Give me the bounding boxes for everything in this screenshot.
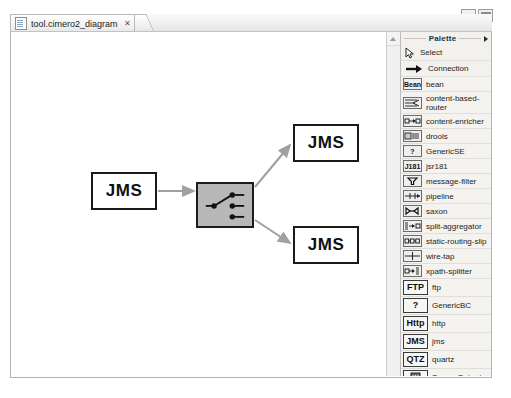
jsr181-icon: J181 bbox=[403, 160, 422, 172]
palette-item-xpath-splitter[interactable]: xpath-splitter bbox=[401, 264, 491, 279]
palette-item-quartz[interactable]: QTZ quartz bbox=[401, 351, 491, 369]
editor-body: JMS bbox=[10, 32, 492, 378]
palette-item-jms[interactable]: JMS jms bbox=[401, 333, 491, 351]
palette-item-label: jsr181 bbox=[426, 162, 448, 171]
palette-item-label: content-based-router bbox=[426, 94, 481, 112]
palette-item-label: GenericBC bbox=[432, 301, 471, 310]
palette-group-service-engines: Bean bean content-based-router conte bbox=[401, 77, 491, 279]
palette-item-drools[interactable]: drools bbox=[401, 129, 491, 144]
connection-router-to-jms-top[interactable] bbox=[255, 145, 290, 187]
palette-tool-label: Select bbox=[420, 48, 442, 57]
palette-item-label: static-routing-slip bbox=[426, 237, 486, 246]
diagram-node-label: JMS bbox=[308, 235, 344, 255]
close-icon[interactable]: ✕ bbox=[124, 20, 130, 28]
connection-arrow-icon bbox=[405, 64, 423, 74]
palette-item-label: jms bbox=[432, 337, 444, 346]
palette-item-label: saxon bbox=[426, 207, 447, 216]
generic-se-icon: ? bbox=[403, 145, 422, 157]
wire-tap-icon bbox=[403, 250, 422, 262]
http-icon: Http bbox=[403, 316, 428, 331]
xpath-splitter-icon bbox=[403, 265, 422, 277]
pipeline-icon bbox=[403, 190, 422, 202]
palette-item-label: split-aggregator bbox=[426, 222, 482, 231]
palette-item-saxon[interactable]: saxon bbox=[401, 204, 491, 219]
generic-bc-icon: ? bbox=[403, 298, 428, 313]
palette-item-label: bean bbox=[426, 80, 444, 89]
palette-item-label: ftp bbox=[432, 283, 441, 292]
palette-item-content-enricher[interactable]: content-enricher bbox=[401, 114, 491, 129]
editor-frame: tool.cimero2_diagram ✕ bbox=[10, 14, 492, 378]
palette-item-label: xpath-splitter bbox=[426, 267, 472, 276]
message-filter-icon bbox=[403, 175, 422, 187]
palette-item-label: quartz bbox=[432, 355, 454, 364]
palette-item-generic-se[interactable]: ? GenericSE bbox=[401, 144, 491, 159]
palette-item-jsr181[interactable]: J181 jsr181 bbox=[401, 159, 491, 174]
content-based-router-icon bbox=[403, 97, 422, 109]
palette-tool-label: Connection bbox=[428, 64, 468, 73]
canvas-vertical-scrollbar[interactable] bbox=[386, 32, 401, 376]
palette-item-content-based-router[interactable]: content-based-router bbox=[401, 92, 491, 114]
eclipse-editor-window: tool.cimero2_diagram ✕ bbox=[0, 0, 511, 398]
quartz-icon: QTZ bbox=[403, 352, 428, 367]
editor-tab-label: tool.cimero2_diagram bbox=[31, 19, 118, 29]
palette-item-label: http bbox=[432, 319, 445, 328]
palette-item-label: ScreenOutput bbox=[432, 373, 481, 376]
diagram-canvas[interactable]: JMS bbox=[11, 32, 386, 376]
content-enricher-icon bbox=[403, 115, 422, 127]
chevron-right-icon[interactable] bbox=[484, 36, 488, 42]
palette-item-screen-output[interactable]: ScreenOutput bbox=[401, 369, 491, 376]
palette-item-label: content-enricher bbox=[426, 117, 484, 126]
diagram-file-icon bbox=[15, 17, 27, 30]
palette-item-generic-bc[interactable]: ? GenericBC bbox=[401, 297, 491, 315]
palette-item-label: drools bbox=[426, 132, 448, 141]
palette-item-bean[interactable]: Bean bean bbox=[401, 77, 491, 92]
palette-item-split-aggregator[interactable]: split-aggregator bbox=[401, 219, 491, 234]
ftp-icon: FTP bbox=[403, 280, 428, 295]
diagram-node-content-based-router[interactable] bbox=[196, 182, 254, 228]
drools-icon bbox=[403, 130, 422, 142]
palette-title: Palette bbox=[429, 34, 457, 43]
diagram-node-label: JMS bbox=[106, 181, 142, 201]
palette-group-binding-components: FTP ftp ? GenericBC Http http JMS jms bbox=[401, 279, 491, 376]
diagram-node-jms-out-top[interactable]: JMS bbox=[293, 124, 359, 162]
static-routing-slip-icon bbox=[403, 235, 422, 247]
editor-tab-cimero2-diagram[interactable]: tool.cimero2_diagram ✕ bbox=[10, 14, 135, 32]
palette-item-message-filter[interactable]: message-filter bbox=[401, 174, 491, 189]
split-aggregator-icon bbox=[403, 220, 422, 232]
bean-icon: Bean bbox=[403, 78, 422, 90]
palette-item-http[interactable]: Http http bbox=[401, 315, 491, 333]
diagram-node-jms-out-bottom[interactable]: JMS bbox=[293, 226, 359, 264]
scroll-up-arrow-icon[interactable] bbox=[387, 32, 400, 46]
palette-item-label: GenericSE bbox=[426, 147, 465, 156]
palette-item-wire-tap[interactable]: wire-tap bbox=[401, 249, 491, 264]
palette-item-label: message-filter bbox=[426, 177, 476, 186]
connection-router-to-jms-bottom[interactable] bbox=[255, 220, 290, 243]
palette-item-label: wire-tap bbox=[426, 252, 454, 261]
diagram-node-jms-in[interactable]: JMS bbox=[91, 172, 157, 210]
palette-item-pipeline[interactable]: pipeline bbox=[401, 189, 491, 204]
diagram-node-label: JMS bbox=[308, 133, 344, 153]
palette-item-ftp[interactable]: FTP ftp bbox=[401, 279, 491, 297]
palette-item-label: pipeline bbox=[426, 192, 454, 201]
palette-item-static-routing-slip[interactable]: static-routing-slip bbox=[401, 234, 491, 249]
jms-icon: JMS bbox=[403, 334, 428, 349]
screen-output-icon bbox=[403, 370, 428, 376]
palette-header-rule-right bbox=[459, 38, 481, 39]
editor-tabstrip: tool.cimero2_diagram ✕ bbox=[10, 14, 492, 32]
palette-header: Palette bbox=[401, 32, 491, 45]
cursor-arrow-icon bbox=[405, 47, 415, 59]
saxon-icon bbox=[403, 205, 422, 217]
palette-header-rule-left bbox=[404, 38, 426, 39]
palette-tool-connection[interactable]: Connection bbox=[401, 61, 491, 77]
palette-panel: Palette Select bbox=[400, 32, 491, 376]
content-based-router-glyph bbox=[198, 184, 252, 226]
palette-tool-select[interactable]: Select bbox=[401, 45, 491, 61]
